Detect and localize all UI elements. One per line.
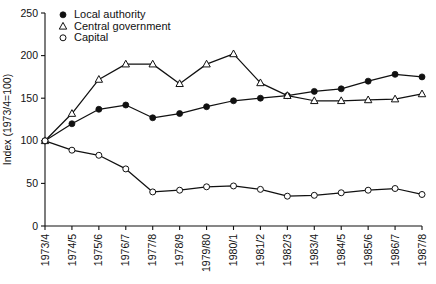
data-point-marker [338, 190, 344, 196]
data-point-marker [123, 102, 129, 108]
data-point-marker [230, 50, 237, 57]
data-point-marker [338, 86, 344, 92]
axes [41, 13, 422, 230]
data-point-marker [177, 111, 183, 117]
y-tick-label: 250 [20, 7, 38, 19]
data-point-marker [231, 183, 237, 189]
data-point-marker [284, 193, 290, 199]
legend-item: Local authority [60, 8, 146, 20]
legend-item: Capital [60, 31, 108, 43]
data-point-marker [96, 106, 102, 112]
data-point-marker [204, 184, 210, 190]
x-tick-label: 1986/7 [389, 234, 401, 266]
y-tick-label: 50 [26, 177, 38, 189]
data-point-marker [419, 191, 425, 197]
data-point-marker [418, 90, 425, 97]
series-capital [42, 138, 425, 199]
data-point-marker [177, 187, 183, 193]
data-point-marker [231, 98, 237, 104]
x-tick-label: 1977/8 [146, 234, 158, 266]
data-point-marker [311, 88, 317, 94]
legend-label: Central government [74, 20, 171, 32]
axis-labels: 0501001502002501973/41974/51975/61976/71… [1, 7, 428, 272]
y-tick-label: 200 [20, 49, 38, 61]
data-point-marker [150, 115, 156, 121]
data-point-marker [365, 78, 371, 84]
data-point-marker [419, 74, 425, 80]
series-line [45, 54, 422, 141]
series-central-government [41, 50, 425, 144]
data-point-marker [204, 104, 210, 110]
data-point-marker [42, 138, 48, 144]
x-tick-label: 1985/6 [362, 234, 374, 266]
x-tick-label: 1978/9 [173, 234, 185, 266]
legend-label: Local authority [74, 8, 146, 20]
line-chart-figure: Local authorityCentral governmentCapital… [0, 0, 436, 284]
legend-label: Capital [74, 31, 108, 43]
legend-item: Central government [59, 20, 170, 32]
data-point-marker [257, 95, 263, 101]
chart-canvas: Local authorityCentral governmentCapital… [0, 0, 436, 284]
y-tick-label: 0 [32, 220, 38, 232]
data-point-marker [123, 166, 129, 172]
x-tick-label: 1984/5 [335, 234, 347, 266]
y-tick-label: 150 [20, 92, 38, 104]
x-tick-label: 1980/1 [227, 234, 239, 266]
data-point-marker [176, 80, 183, 87]
x-tick-label: 1981/2 [254, 234, 266, 266]
data-point-marker [392, 71, 398, 77]
x-tick-label: 1974/5 [66, 234, 78, 266]
y-axis-title: Index (1973/4=100) [1, 74, 13, 165]
chart-legend: Local authorityCentral governmentCapital [59, 8, 170, 43]
x-tick-label: 1975/6 [92, 234, 104, 266]
data-point-marker [96, 152, 102, 158]
data-point-marker [392, 186, 398, 192]
data-series [41, 50, 425, 199]
data-point-marker [69, 121, 75, 127]
legend-marker [59, 22, 66, 29]
x-tick-label: 1983/4 [308, 234, 320, 266]
x-tick-label: 1987/8 [416, 234, 428, 266]
data-point-marker [365, 187, 371, 193]
legend-marker [60, 35, 66, 41]
data-point-marker [95, 76, 102, 83]
data-point-marker [257, 186, 263, 192]
y-tick-label: 100 [20, 134, 38, 146]
x-tick-label: 1979/80 [200, 234, 212, 272]
x-tick-label: 1973/4 [39, 234, 51, 266]
data-point-marker [150, 189, 156, 195]
legend-marker [60, 12, 66, 18]
x-tick-label: 1982/3 [281, 234, 293, 266]
x-tick-label: 1976/7 [119, 234, 131, 266]
data-point-marker [69, 147, 75, 153]
data-point-marker [311, 192, 317, 198]
